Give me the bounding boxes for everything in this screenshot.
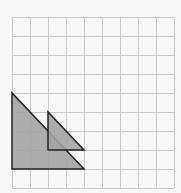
grid-diagram <box>0 0 181 193</box>
